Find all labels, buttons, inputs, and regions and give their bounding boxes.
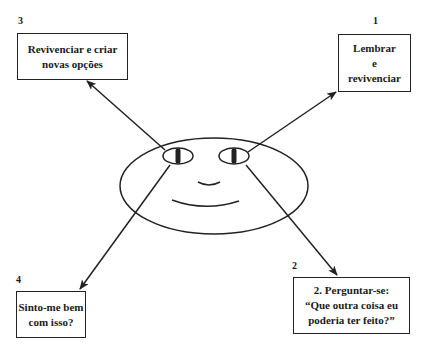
- step-1-number: 1: [373, 15, 378, 26]
- nose-icon: [198, 182, 220, 185]
- step-3-line-1: Revivenciar e criar: [28, 42, 118, 57]
- step-1-line-3: revivenciar: [348, 71, 401, 86]
- step-2-box: 2. Perguntar-se: “Que outra coisa eu pod…: [293, 277, 410, 334]
- mouth-icon: [172, 200, 239, 206]
- step-2-line-1: 2. Perguntar-se:: [314, 283, 389, 298]
- step-4-line-2: com isso?: [29, 315, 74, 330]
- step-4-number: 4: [16, 274, 21, 285]
- step-3-number: 3: [18, 15, 23, 26]
- arrow-to-step-1: [248, 92, 336, 152]
- left-eye-icon: [163, 148, 193, 164]
- arrow-to-step-2: [246, 165, 337, 275]
- step-2-line-3: poderia ter feito?”: [308, 313, 395, 328]
- step-4-line-1: Sinto-me bem: [18, 300, 83, 315]
- step-2-line-2: “Que outra coisa eu: [305, 298, 398, 313]
- face-icon: [120, 138, 308, 234]
- right-eye-icon: [219, 148, 249, 164]
- step-3-box: Revivenciar e criar novas opções: [17, 33, 128, 80]
- step-3-line-2: novas opções: [42, 57, 103, 72]
- step-1-line-2: e: [372, 56, 377, 71]
- arrow-to-step-4: [80, 165, 170, 289]
- reflection-cycle-diagram: 3 Revivenciar e criar novas opções 1 Lem…: [0, 0, 428, 355]
- step-1-line-1: Lembrar: [353, 41, 396, 56]
- step-2-number: 2: [292, 260, 297, 271]
- arrow-to-step-3: [87, 81, 165, 150]
- step-1-box: Lembrar e revivenciar: [338, 34, 411, 92]
- step-4-box: Sinto-me bem com isso?: [16, 291, 86, 338]
